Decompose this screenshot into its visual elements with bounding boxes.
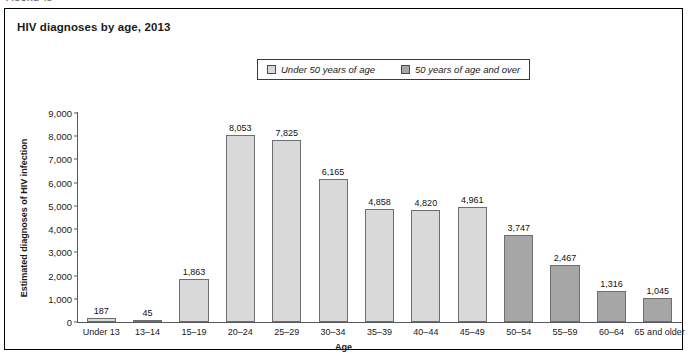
- x-axis-tick-label: 50–54: [495, 327, 541, 337]
- bar-value-label: 7,825: [275, 129, 298, 138]
- bar[interactable]: [597, 291, 626, 322]
- y-axis-tick-mark: [74, 113, 78, 114]
- bar-column[interactable]: 1,863: [179, 113, 208, 322]
- y-axis-tick-mark: [74, 322, 78, 323]
- legend-swatch-icon: [401, 65, 410, 74]
- bar[interactable]: [643, 298, 672, 322]
- bar[interactable]: [319, 179, 348, 322]
- x-axis-tick-label: 55–59: [542, 327, 588, 337]
- bar[interactable]: [411, 210, 440, 322]
- chart-title: HIV diagnoses by age, 2013: [17, 21, 170, 33]
- y-axis-tick-mark: [74, 182, 78, 183]
- y-axis-tick-mark: [74, 136, 78, 137]
- plot-area: 9,0008,0007,0006,0005,0004,0003,0002,000…: [78, 113, 681, 322]
- bar-column[interactable]: 4,820: [411, 113, 440, 322]
- x-axis-tick-label: 45–49: [449, 327, 495, 337]
- y-axis-tick-label: 5,000: [48, 200, 72, 211]
- bar[interactable]: [179, 279, 208, 322]
- y-axis-tick-label: 9,000: [48, 108, 72, 119]
- bar-value-label: 4,961: [461, 196, 484, 205]
- x-axis-tick-label: 40–44: [403, 327, 449, 337]
- x-axis-tick-label: 65 and older: [635, 327, 681, 337]
- bar-value-label: 4,820: [415, 199, 438, 208]
- y-axis-title: Estimated diagnoses of HIV infection: [17, 113, 31, 322]
- bar-value-label: 4,858: [368, 198, 391, 207]
- y-axis-tick-mark: [74, 159, 78, 160]
- bar-value-label: 3,747: [507, 224, 530, 233]
- legend-entry: 50 years of age and over: [401, 64, 520, 75]
- bar-column[interactable]: 3,747: [504, 113, 533, 322]
- y-axis-tick-label: 4,000: [48, 224, 72, 235]
- bar[interactable]: [226, 135, 255, 322]
- legend-swatch-icon: [267, 65, 276, 74]
- legend-entry: Under 50 years of age: [267, 64, 375, 75]
- bar-value-label: 1,316: [600, 280, 623, 289]
- bar-value-label: 1,045: [647, 287, 670, 296]
- figure-panel: HIV diagnoses by age, 2013 Under 50 year…: [4, 8, 683, 350]
- bar-column[interactable]: 4,858: [365, 113, 394, 322]
- legend-label: 50 years of age and over: [415, 64, 520, 75]
- bar-column[interactable]: 4,961: [458, 113, 487, 322]
- bar[interactable]: [504, 235, 533, 322]
- y-axis-tick-label: 7,000: [48, 154, 72, 165]
- bar[interactable]: [272, 140, 301, 322]
- y-axis-tick-label: 6,000: [48, 177, 72, 188]
- bar-column[interactable]: 187: [87, 113, 116, 322]
- x-axis-tick-label: 30–34: [310, 327, 356, 337]
- bar-value-label: 187: [94, 307, 109, 316]
- x-axis-tick-label: 60–64: [588, 327, 634, 337]
- bar[interactable]: [365, 209, 394, 322]
- bar-column[interactable]: 1,316: [597, 113, 626, 322]
- x-axis-tick-label: 35–39: [356, 327, 402, 337]
- bar-column[interactable]: 1,045: [643, 113, 672, 322]
- y-axis-tick-label: 1,000: [48, 293, 72, 304]
- bar-column[interactable]: 2,467: [550, 113, 579, 322]
- bar-value-label: 8,053: [229, 124, 252, 133]
- y-axis-tick-label: 8,000: [48, 131, 72, 142]
- x-axis-tick-label: 25–29: [264, 327, 310, 337]
- bar[interactable]: [458, 207, 487, 322]
- x-axis-title: Age: [5, 342, 682, 352]
- bar-value-label: 45: [143, 309, 153, 318]
- bar-column[interactable]: 8,053: [226, 113, 255, 322]
- y-axis-tick-mark: [74, 229, 78, 230]
- bar-column[interactable]: 45: [133, 113, 162, 322]
- x-axis-line: [78, 322, 682, 323]
- y-axis-tick-label: 2,000: [48, 270, 72, 281]
- y-axis-tick-mark: [74, 275, 78, 276]
- x-axis-tick-label: 20–24: [217, 327, 263, 337]
- y-axis-title-text: Estimated diagnoses of HIV infection: [19, 138, 29, 297]
- bar[interactable]: [550, 265, 579, 322]
- bar-value-label: 1,863: [183, 268, 206, 277]
- x-axis-tick-label: 13–14: [124, 327, 170, 337]
- figure-label: FIGURE 4b: [6, 0, 52, 3]
- bar[interactable]: [87, 318, 116, 322]
- chart-legend: Under 50 years of age50 years of age and…: [257, 59, 530, 80]
- y-axis-tick-mark: [74, 252, 78, 253]
- y-axis-tick-mark: [74, 205, 78, 206]
- y-axis-tick-mark: [74, 298, 78, 299]
- bar-column[interactable]: 6,165: [319, 113, 348, 322]
- bar-value-label: 2,467: [554, 254, 577, 263]
- x-axis-tick-label: Under 13: [78, 327, 124, 337]
- y-axis-tick-label: 0: [67, 317, 72, 328]
- x-axis-tick-label: 15–19: [171, 327, 217, 337]
- y-axis-tick-label: 3,000: [48, 247, 72, 258]
- bar-value-label: 6,165: [322, 168, 345, 177]
- bar-column[interactable]: 7,825: [272, 113, 301, 322]
- bar[interactable]: [133, 320, 162, 322]
- legend-label: Under 50 years of age: [281, 64, 375, 75]
